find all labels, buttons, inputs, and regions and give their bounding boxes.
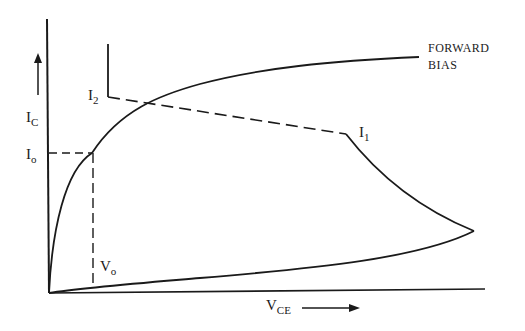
i2-label: I2 <box>88 87 99 106</box>
y-axis <box>47 19 49 293</box>
reverse-return-curve <box>49 231 474 293</box>
i1-label: I1 <box>359 124 370 143</box>
load-line-i2-i1 <box>108 97 346 134</box>
x-axis <box>49 289 485 293</box>
forward-bias-label-line2: BIAS <box>428 58 457 72</box>
right-arrow-icon <box>302 304 360 312</box>
io-label: Io <box>26 146 37 165</box>
forward-bias-label-line1: FORWARD <box>428 41 490 55</box>
x-axis-label: VCE <box>266 297 291 316</box>
vo-label: Vo <box>100 258 117 277</box>
diagram-canvas: IC Io I2 I1 Vo VCE FORWARD BIAS <box>0 0 525 331</box>
up-arrow-icon <box>34 53 42 95</box>
y-axis-label: IC <box>26 109 38 128</box>
i1-turnoff-curve <box>346 134 474 231</box>
